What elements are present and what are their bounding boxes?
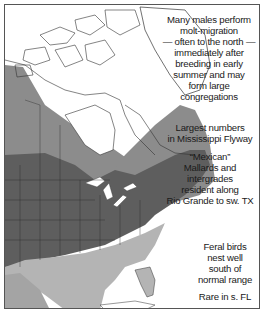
- map-frame: Many males perform molt-migration — ofte…: [4, 4, 260, 309]
- molt-migration-note: Many males perform molt-migration — ofte…: [159, 14, 259, 102]
- feral-birds-note: Feral birds nest well south of normal ra…: [190, 241, 260, 285]
- rare-florida-note: Rare in s. FL: [190, 291, 260, 302]
- arctic-islands: [15, 10, 140, 77]
- mississippi-flyway-note: Largest numbers in Mississippi Flyway: [159, 122, 260, 144]
- mexican-mallards-note: “Mexican” Mallards and intergrades resid…: [159, 151, 260, 206]
- florida: [135, 267, 155, 297]
